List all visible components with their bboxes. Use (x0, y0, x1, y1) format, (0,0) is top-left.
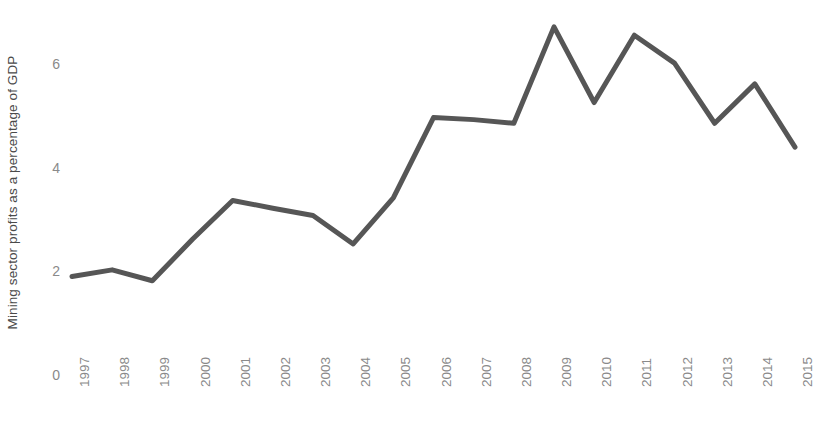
x-tick-label-text: 2014 (760, 357, 775, 387)
plot-area (0, 0, 819, 385)
x-tick-label-text: 2003 (318, 357, 333, 387)
data-line-svg (0, 0, 819, 385)
x-tick-label-text: 2000 (198, 357, 213, 387)
x-tick-label-text: 2015 (800, 357, 815, 387)
x-tick-label-text: 2008 (519, 357, 534, 387)
x-tick-label-text: 2005 (398, 357, 413, 387)
x-tick-label-text: 2010 (599, 357, 614, 387)
x-axis-tick-labels: 1997199819992000200120022003200420052006… (0, 385, 819, 441)
x-tick-label-text: 2013 (720, 357, 735, 387)
series-line-mining-profits (72, 27, 795, 281)
x-tick-label-text: 2006 (439, 357, 454, 387)
x-tick-label-text: 2011 (639, 358, 654, 387)
x-tick-label-text: 1998 (117, 357, 132, 387)
x-tick-label-text: 2009 (559, 357, 574, 387)
x-tick-label-text: 2001 (238, 357, 253, 387)
x-tick-label-text: 2012 (680, 357, 695, 387)
x-tick-label-text: 2007 (479, 357, 494, 387)
x-tick-label-text: 1999 (157, 357, 172, 387)
x-tick-label-text: 2002 (278, 357, 293, 387)
line-chart: Mining sector profits as a percentage of… (0, 0, 819, 441)
x-tick-label-text: 2004 (358, 357, 373, 387)
x-tick-label-text: 1997 (77, 357, 92, 387)
